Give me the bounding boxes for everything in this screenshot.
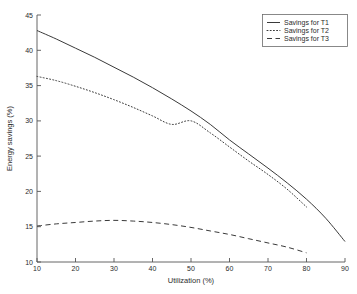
- y-axis-title: Energy savings (%): [5, 105, 14, 171]
- legend-label-t1: Savings for T1: [284, 19, 329, 27]
- y-tick-label: 45: [25, 12, 33, 19]
- x-tick-label: 40: [149, 265, 157, 272]
- x-tick-label: 20: [72, 265, 80, 272]
- x-tick-label: 10: [33, 265, 41, 272]
- line-chart: 10 15 20 25 30 35 40 45 10 20 30 40 50 6…: [0, 0, 357, 294]
- x-tick-label: 90: [341, 265, 349, 272]
- chart-figure: 10 15 20 25 30 35 40 45 10 20 30 40 50 6…: [0, 0, 357, 294]
- legend-label-t3: Savings for T3: [284, 35, 329, 43]
- legend-label-t2: Savings for T2: [284, 27, 329, 35]
- x-tick-label: 70: [264, 265, 272, 272]
- y-tick-label: 30: [25, 117, 33, 124]
- y-tick-label: 10: [25, 259, 33, 266]
- x-axis-title: Utilization (%): [168, 276, 215, 285]
- legend[interactable]: Savings for T1 Savings for T2 Savings fo…: [263, 15, 348, 47]
- y-tick-label: 20: [25, 188, 33, 195]
- x-tick-label: 80: [303, 265, 311, 272]
- x-tick-label: 30: [110, 265, 118, 272]
- x-tick-label: 50: [187, 265, 195, 272]
- y-tick-label: 25: [25, 153, 33, 160]
- x-tick-label: 60: [226, 265, 234, 272]
- y-tick-label: 40: [25, 47, 33, 54]
- y-tick-label: 35: [25, 82, 33, 89]
- y-tick-label: 15: [25, 223, 33, 230]
